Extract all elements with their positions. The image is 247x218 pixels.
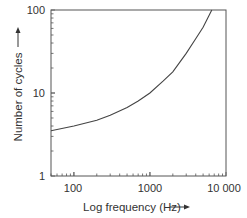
y-axis-title: Number of cycles [12, 27, 24, 141]
y-axis-ticks [51, 10, 55, 176]
x-tick-label-10000: 10 000 [207, 182, 241, 194]
x-axis-ticks [51, 172, 226, 176]
data-curve [51, 10, 212, 131]
x-tick-label-1000: 1000 [138, 182, 162, 194]
arrow-right-icon [184, 205, 190, 210]
svg-text:Log frequency (Hz): Log frequency (Hz) [83, 201, 181, 213]
y-tick-label-100: 100 [27, 4, 45, 16]
chart: 100 10 1 100 1000 10 000 Log frequency (… [0, 0, 247, 218]
x-axis-title: Log frequency (Hz) [83, 201, 190, 213]
plot-frame [51, 10, 226, 176]
arrow-up-icon [16, 27, 21, 33]
y-tick-label-1: 1 [39, 170, 45, 182]
x-tick-label-100: 100 [64, 182, 82, 194]
y-tick-label-10: 10 [33, 87, 45, 99]
svg-text:Number of cycles: Number of cycles [12, 52, 24, 141]
